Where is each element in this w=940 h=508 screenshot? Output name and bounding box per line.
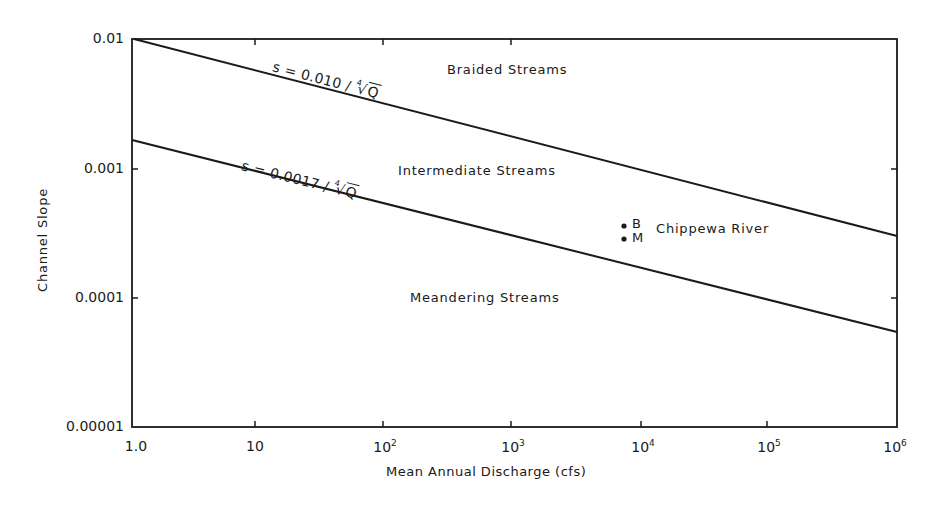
x-tick-label: 103: [501, 438, 525, 455]
region-label-braided: Braided Streams: [447, 62, 567, 77]
y-tick-label: 0.001: [14, 160, 124, 176]
y-tick-label: 0.01: [14, 30, 124, 46]
y-tick-label: 0.0001: [14, 289, 124, 305]
y-axis-title: Channel Slope: [35, 188, 50, 292]
point-label-m: M: [632, 230, 644, 245]
x-tick-label: 104: [631, 438, 655, 455]
data-point-m: [621, 236, 626, 241]
x-tick-label: 102: [373, 438, 397, 455]
point-group-label: Chippewa River: [656, 221, 769, 236]
x-tick-label: 106: [883, 438, 907, 455]
x-tick-label: 10: [246, 438, 264, 454]
region-label-meandering: Meandering Streams: [410, 290, 559, 305]
y-axis-ticks: [132, 169, 897, 298]
x-tick-label: 105: [757, 438, 781, 455]
x-axis-title: Mean Annual Discharge (cfs): [386, 464, 586, 479]
plot-frame: [132, 39, 897, 427]
y-tick-label: 0.00001: [14, 418, 124, 434]
x-tick-label: 1.0: [125, 438, 147, 454]
region-label-intermediate: Intermediate Streams: [398, 163, 556, 178]
point-label-b: B: [632, 216, 641, 231]
data-point-b: [621, 223, 626, 228]
